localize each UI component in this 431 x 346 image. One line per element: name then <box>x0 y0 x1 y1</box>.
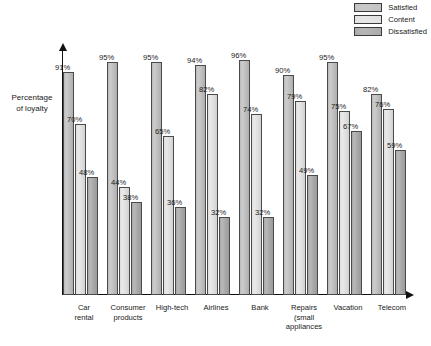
bar-value-label: 32% <box>211 209 226 217</box>
x-axis-category-7: Telecom <box>370 303 414 345</box>
bar-group: 90%79%49% <box>283 50 327 295</box>
bar-dissatisfied[interactable]: 67% <box>351 131 362 295</box>
x-axis-category-3: Airlines <box>194 303 238 345</box>
bar-satisfied[interactable]: 96% <box>239 60 250 295</box>
bar-satisfied[interactable]: 91% <box>63 72 74 295</box>
legend-item-satisfied[interactable]: Satisfied <box>354 2 427 12</box>
bar-slot: 48% <box>87 50 98 295</box>
bar-value-label: 75% <box>331 103 346 111</box>
category-label-line: Bank <box>238 303 282 313</box>
bar-value-label: 79% <box>287 93 302 101</box>
bar-slot: 95% <box>107 50 118 295</box>
bar-satisfied[interactable]: 90% <box>283 75 294 296</box>
bar-content[interactable]: 82% <box>207 94 218 295</box>
y-axis-label-line1: Percentage <box>2 92 62 103</box>
bar-value-label: 74% <box>243 106 258 114</box>
bar-slot: 67% <box>351 50 362 295</box>
x-axis-category-1: Consumerproducts <box>106 303 150 345</box>
bar-dissatisfied[interactable]: 59% <box>395 150 406 295</box>
bar-slot: 32% <box>219 50 230 295</box>
x-axis-category-2: High-tech <box>150 303 194 345</box>
bar-value-label: 95% <box>99 54 114 62</box>
bar-value-label: 70% <box>67 116 82 124</box>
category-label-line: Airlines <box>194 303 238 313</box>
bar-satisfied[interactable]: 82% <box>371 94 382 295</box>
x-axis-category-4: Bank <box>238 303 282 345</box>
bar-value-label: 49% <box>299 167 314 175</box>
bar-slot: 90% <box>283 50 294 295</box>
bar-content[interactable]: 44% <box>119 187 130 295</box>
bar-content[interactable]: 79% <box>295 101 306 295</box>
bar-value-label: 82% <box>363 86 378 94</box>
bar-slot: 74% <box>251 50 262 295</box>
chart-legend: SatisfiedContentDissatisfied <box>354 2 427 36</box>
bar-slot: 91% <box>63 50 74 295</box>
legend-label: Dissatisfied <box>388 27 427 36</box>
bar-value-label: 96% <box>231 52 246 60</box>
bar-group: 82%76%59% <box>371 50 415 295</box>
legend-label: Satisfied <box>388 3 417 12</box>
category-label-line: Telecom <box>370 303 414 313</box>
bar-slot: 76% <box>383 50 394 295</box>
bar-dissatisfied[interactable]: 49% <box>307 175 318 295</box>
bar-value-label: 59% <box>387 142 402 150</box>
bar-group: 95%65%36% <box>151 50 195 295</box>
bar-satisfied[interactable]: 95% <box>327 62 338 295</box>
bar-slot: 95% <box>327 50 338 295</box>
bar-value-label: 94% <box>187 57 202 65</box>
x-axis-category-labels: CarrentalConsumerproductsHigh-techAirlin… <box>62 303 414 345</box>
bar-dissatisfied[interactable]: 36% <box>175 207 186 295</box>
legend-label: Content <box>388 15 415 24</box>
bar-content[interactable]: 65% <box>163 136 174 295</box>
category-label-line: (small <box>282 313 326 323</box>
bar-value-label: 82% <box>199 86 214 94</box>
bar-slot: 59% <box>395 50 406 295</box>
bar-value-label: 32% <box>255 209 270 217</box>
bar-satisfied[interactable]: 94% <box>195 65 206 295</box>
legend-item-content[interactable]: Content <box>354 14 427 24</box>
bar-dissatisfied[interactable]: 48% <box>87 177 98 295</box>
y-axis-label: Percentage of loyalty <box>2 92 62 114</box>
legend-swatch-icon <box>354 3 382 12</box>
bar-value-label: 48% <box>79 169 94 177</box>
category-label-line: High-tech <box>150 303 194 313</box>
legend-swatch-icon <box>354 27 382 36</box>
category-label-line: rental <box>62 313 106 323</box>
category-label-line: Repairs <box>282 303 326 313</box>
bar-value-label: 95% <box>319 54 334 62</box>
bar-slot: 82% <box>371 50 382 295</box>
bar-content[interactable]: 75% <box>339 111 350 295</box>
bar-satisfied[interactable]: 95% <box>151 62 162 295</box>
bar-dissatisfied[interactable]: 32% <box>219 217 230 295</box>
bar-value-label: 65% <box>155 128 170 136</box>
bar-content[interactable]: 70% <box>75 124 86 296</box>
bar-content[interactable]: 76% <box>383 109 394 295</box>
bar-slot: 95% <box>151 50 162 295</box>
bar-value-label: 76% <box>375 101 390 109</box>
category-label-line: Consumer <box>106 303 150 313</box>
category-label-line: Car <box>62 303 106 313</box>
bar-value-label: 95% <box>143 54 158 62</box>
bar-slot: 49% <box>307 50 318 295</box>
category-label-line: appliances <box>282 322 326 332</box>
bar-slot: 32% <box>263 50 274 295</box>
loyalty-bar-chart: SatisfiedContentDissatisfied Percentage … <box>0 0 431 346</box>
category-label-line: Vacation <box>326 303 370 313</box>
category-label-line: products <box>106 313 150 323</box>
bar-groups: 91%70%48%95%44%38%95%65%36%94%82%32%96%7… <box>63 50 414 295</box>
legend-item-dissatisfied[interactable]: Dissatisfied <box>354 26 427 36</box>
bar-value-label: 91% <box>55 64 70 72</box>
bar-slot: 65% <box>163 50 174 295</box>
bar-group: 96%74%32% <box>239 50 283 295</box>
bar-value-label: 38% <box>123 194 138 202</box>
bar-value-label: 36% <box>167 199 182 207</box>
bar-dissatisfied[interactable]: 32% <box>263 217 274 295</box>
bar-group: 91%70%48% <box>63 50 107 295</box>
bar-dissatisfied[interactable]: 38% <box>131 202 142 295</box>
bar-slot: 36% <box>175 50 186 295</box>
bar-slot: 38% <box>131 50 142 295</box>
bar-group: 94%82%32% <box>195 50 239 295</box>
plot-area: 91%70%48%95%44%38%95%65%36%94%82%32%96%7… <box>62 50 414 295</box>
bar-content[interactable]: 74% <box>251 114 262 295</box>
bar-value-label: 90% <box>275 67 290 75</box>
